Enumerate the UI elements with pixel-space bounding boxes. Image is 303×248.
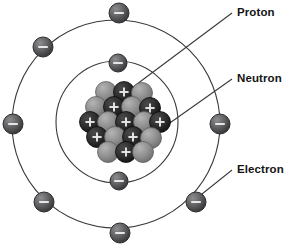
electron-particle-icon [3,114,23,134]
electron-particle-icon [109,3,129,23]
electron-particle-icon [33,37,53,57]
electron-particle-icon [34,192,54,212]
electron-particle-icon [110,172,128,190]
electron-particle-icon [110,223,130,243]
atom-structure-diagram: Proton Neutron Electron [0,0,303,248]
label-neutron: Neutron [237,72,282,84]
electron-particle-icon [186,192,206,212]
nucleus-cluster [80,82,171,163]
label-proton: Proton [237,6,275,18]
leader-line-proton [125,13,232,93]
electron-particle-icon [210,114,230,134]
label-electron: Electron [237,163,284,175]
atom-diagram-canvas [0,0,303,248]
neutron-particle-icon [133,142,154,163]
electron-particle-icon [109,54,127,72]
